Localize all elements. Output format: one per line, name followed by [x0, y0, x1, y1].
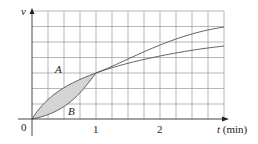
curve-b-label: B: [68, 106, 75, 117]
x-axis-label: t (min): [217, 124, 247, 135]
curve-a-label: A: [55, 64, 62, 75]
x-tick-1: 1: [93, 124, 99, 135]
x-axis-unit: (min): [223, 123, 247, 135]
y-axis-label: v: [21, 6, 26, 17]
x-tick-2: 2: [157, 124, 163, 135]
x-axis-var: t: [217, 123, 220, 135]
origin-label: 0: [21, 122, 27, 133]
x-axis-arrow-icon: [222, 117, 229, 122]
